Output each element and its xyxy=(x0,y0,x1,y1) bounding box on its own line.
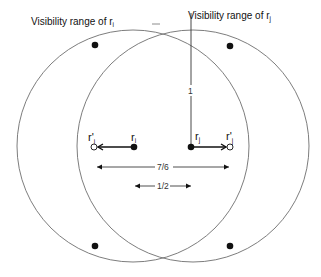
range-i-label: Visibility range of ri xyxy=(31,16,114,28)
robot-rj-point xyxy=(188,144,195,151)
robot-ri-point xyxy=(131,144,138,151)
outer-distance-label: 7/6 xyxy=(157,162,169,172)
range-j-label: Visibility range of rj xyxy=(188,10,271,23)
inner-distance-label: 1/2 xyxy=(157,181,169,191)
corner-dot-top-right xyxy=(227,43,234,50)
rj-prime-label: r'j xyxy=(226,130,233,145)
ri-prime-label: r'i xyxy=(88,131,95,145)
corner-dot-bottom-right xyxy=(227,243,234,250)
corner-dot-top-left xyxy=(92,42,99,49)
vertical-distance-label: 1 xyxy=(188,86,193,96)
robot-rj-prime-point xyxy=(227,144,233,150)
ri-label: ri xyxy=(131,131,136,144)
corner-dot-bottom-left xyxy=(92,243,99,250)
visibility-diagram: Visibility range of ri Visibility range … xyxy=(0,0,321,277)
rj-label: rj xyxy=(195,130,200,144)
